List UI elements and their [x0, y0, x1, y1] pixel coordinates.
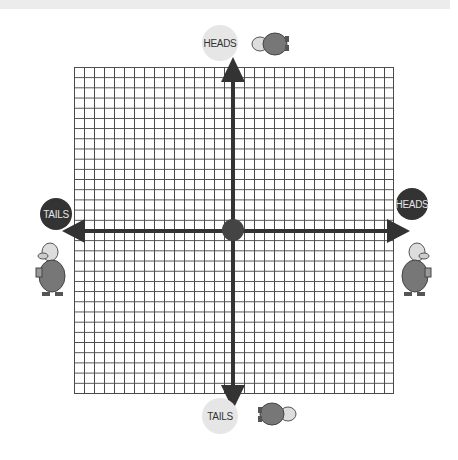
cartoon-man-icon — [393, 240, 439, 300]
cartoon-man-icon — [245, 22, 295, 66]
arrow-up-icon — [221, 57, 245, 82]
label-top-heads: HEADS — [202, 25, 238, 61]
label-left-tails: TAILS — [40, 198, 72, 230]
label-bottom-tails: TAILS — [202, 398, 238, 434]
axes — [0, 0, 458, 460]
cartoon-man-icon — [28, 240, 74, 300]
cartoon-man-icon — [248, 394, 304, 434]
origin-marker — [222, 219, 244, 241]
label-right-heads: HEADS — [396, 188, 428, 220]
